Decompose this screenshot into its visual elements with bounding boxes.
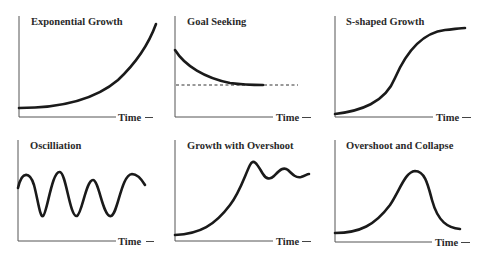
oscillation-curve — [18, 172, 145, 216]
panel-exponential-growth: Exponential Growth Time — [19, 16, 156, 123]
panel-overshoot-and-collapse: Overshoot and Collapse Time — [335, 140, 470, 248]
x-axis-label: Time — [276, 112, 299, 123]
x-axis-label: Time — [118, 236, 141, 247]
panel-title: Goal Seeking — [187, 16, 247, 27]
panel-title: Oscilliation — [30, 140, 81, 151]
x-axis-label: Time — [435, 237, 458, 248]
panel-title: S-shaped Growth — [346, 16, 424, 27]
s-shaped-curve — [335, 28, 465, 114]
goal-seeking-curve — [175, 50, 263, 85]
panel-title: Exponential Growth — [31, 16, 123, 27]
panel-title: Growth with Overshoot — [187, 140, 294, 151]
panel-title: Overshoot and Collapse — [346, 140, 454, 151]
overshoot-collapse-curve — [335, 171, 460, 233]
panel-goal-seeking: Goal Seeking Time — [175, 16, 311, 123]
panel-growth-with-overshoot: Growth with Overshoot Time — [175, 140, 311, 247]
x-axis-label: Time — [118, 112, 141, 123]
behavior-modes-diagram: Exponential Growth Time Goal Seeking Tim… — [0, 0, 489, 260]
panel-s-shaped-growth: S-shaped Growth Time — [335, 16, 471, 123]
exponential-curve — [19, 24, 156, 108]
x-axis-label: Time — [436, 112, 459, 123]
growth-overshoot-curve — [175, 162, 309, 235]
panel-oscillation: Oscilliation Time — [18, 140, 154, 247]
x-axis-label: Time — [276, 236, 299, 247]
